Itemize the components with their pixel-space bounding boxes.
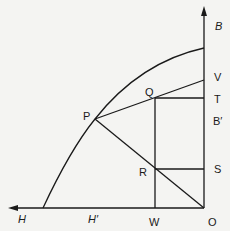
label-w: W [149, 216, 160, 228]
boundary-curve [43, 48, 204, 208]
label-b-prime: B′ [213, 115, 222, 127]
label-h: H [18, 213, 26, 225]
label-t: T [214, 93, 221, 105]
arrow-up-icon [201, 6, 207, 16]
label-b: B [215, 20, 222, 32]
label-o: O [208, 216, 217, 228]
label-p: P [83, 110, 90, 122]
segment-p-o [95, 119, 204, 208]
arrow-left-icon [8, 205, 18, 211]
diagram-figure: B V T B′ S O W H′ H P Q R [0, 0, 230, 231]
label-h-prime: H′ [88, 213, 99, 225]
label-v: V [214, 71, 222, 83]
label-q: Q [145, 86, 154, 98]
vertical-axis [201, 6, 207, 208]
label-r: R [139, 166, 147, 178]
label-s: S [214, 163, 221, 175]
horizontal-axis [8, 205, 204, 211]
